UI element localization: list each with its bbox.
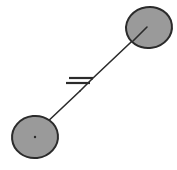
break-symbol xyxy=(66,78,93,83)
node-top-right-body xyxy=(123,4,174,51)
node-top-right xyxy=(123,4,174,51)
diagram-svg xyxy=(0,0,177,170)
node-bottom-left-center-dot-icon xyxy=(34,136,36,138)
connector-segment-middle xyxy=(80,79,92,91)
figure-canvas xyxy=(0,0,177,170)
